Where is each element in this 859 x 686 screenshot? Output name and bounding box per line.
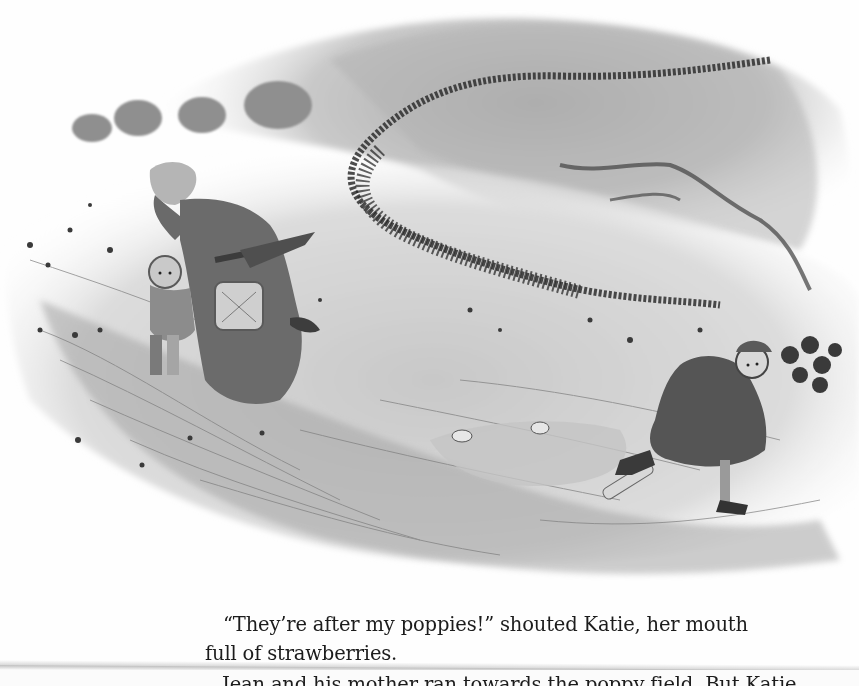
poppy-field-illustration xyxy=(0,0,859,590)
story-text-line-1: “They’re after my poppies!” shouted Kati… xyxy=(223,612,748,636)
book-page: “They’re after my poppies!” shouted Kati… xyxy=(0,0,859,686)
story-text-line-3: Jean and his mother ran towards the popp… xyxy=(222,672,796,686)
illustration-canvas xyxy=(0,0,859,590)
